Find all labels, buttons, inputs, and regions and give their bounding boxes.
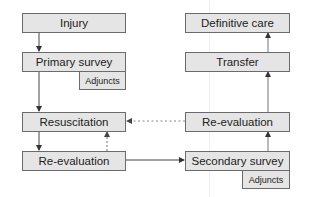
- node-primary-adjuncts: Adjuncts: [79, 71, 126, 90]
- node-secondary-adjuncts: Adjuncts: [242, 170, 290, 189]
- node-label: Adjuncts: [85, 76, 120, 86]
- node-transfer: Transfer: [185, 52, 290, 72]
- node-label: Re-evaluation: [39, 155, 110, 167]
- node-injury: Injury: [22, 13, 126, 33]
- node-label: Adjuncts: [249, 175, 284, 185]
- node-definitive-care: Definitive care: [185, 13, 290, 33]
- node-label: Definitive care: [201, 17, 274, 29]
- node-label: Transfer: [216, 56, 258, 68]
- node-label: Secondary survey: [191, 155, 283, 167]
- node-re-evaluation-left: Re-evaluation: [22, 151, 126, 171]
- node-primary-survey: Primary survey: [22, 52, 126, 72]
- node-label: Resuscitation: [39, 116, 108, 128]
- node-label: Injury: [60, 17, 88, 29]
- node-resuscitation: Resuscitation: [22, 112, 126, 132]
- node-re-evaluation-right: Re-evaluation: [185, 112, 290, 132]
- node-label: Primary survey: [36, 56, 113, 68]
- node-label: Re-evaluation: [202, 116, 273, 128]
- node-secondary-survey: Secondary survey: [185, 151, 290, 171]
